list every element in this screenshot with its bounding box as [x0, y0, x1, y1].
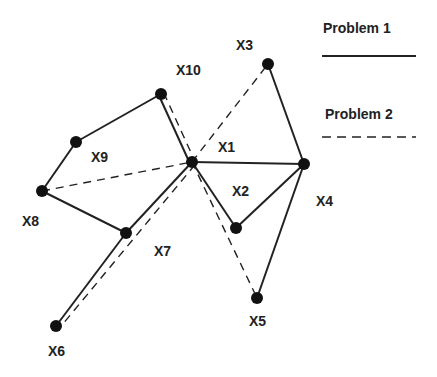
node-x10 [155, 88, 167, 100]
edge-x1-x2 [192, 162, 236, 228]
legend-label-problem-1: Problem 1 [323, 20, 391, 36]
node-x1 [186, 156, 198, 168]
node-label-x9: X9 [91, 149, 108, 165]
node-x6 [50, 320, 62, 332]
node-x8 [36, 185, 48, 197]
node-label-x2: X2 [232, 183, 249, 199]
node-x3 [262, 58, 274, 70]
problem-1-edges [42, 64, 304, 326]
node-x9 [70, 136, 82, 148]
legend-label-problem-2: Problem 2 [325, 106, 393, 122]
node-label-x1: X1 [218, 139, 235, 155]
node-label-x7: X7 [154, 243, 171, 259]
edge-x10-x9 [76, 94, 161, 142]
node-label-x6: X6 [48, 343, 65, 359]
edge-x10-x1 [159, 95, 190, 163]
node-label-x3: X3 [236, 37, 253, 53]
node-x4 [298, 158, 310, 170]
edge-x3-x4 [268, 64, 304, 164]
node-x2 [230, 222, 242, 234]
edge-x7-x6 [56, 233, 126, 326]
node-label-x5: X5 [249, 313, 266, 329]
node-x5 [251, 292, 263, 304]
legend: Problem 1 Problem 2 [322, 20, 416, 137]
edge-x1-x4 [192, 162, 304, 164]
dashed-edge-x10-x1 [164, 93, 195, 161]
graph-nodes [36, 58, 310, 332]
edge-x7-x1 [126, 162, 192, 233]
edge-x4-x5 [257, 164, 304, 298]
edge-x8-x7 [42, 191, 126, 233]
graph-diagram: X1X2X3X4X5X6X7X8X9X10 Problem 1 Problem … [0, 0, 437, 377]
node-label-x10: X10 [176, 62, 201, 78]
edge-x9-x8 [42, 142, 76, 191]
node-label-x4: X4 [316, 193, 333, 209]
dashed-edge-x1-x6 [59, 165, 195, 329]
node-label-x8: X8 [22, 213, 39, 229]
node-x7 [120, 227, 132, 239]
